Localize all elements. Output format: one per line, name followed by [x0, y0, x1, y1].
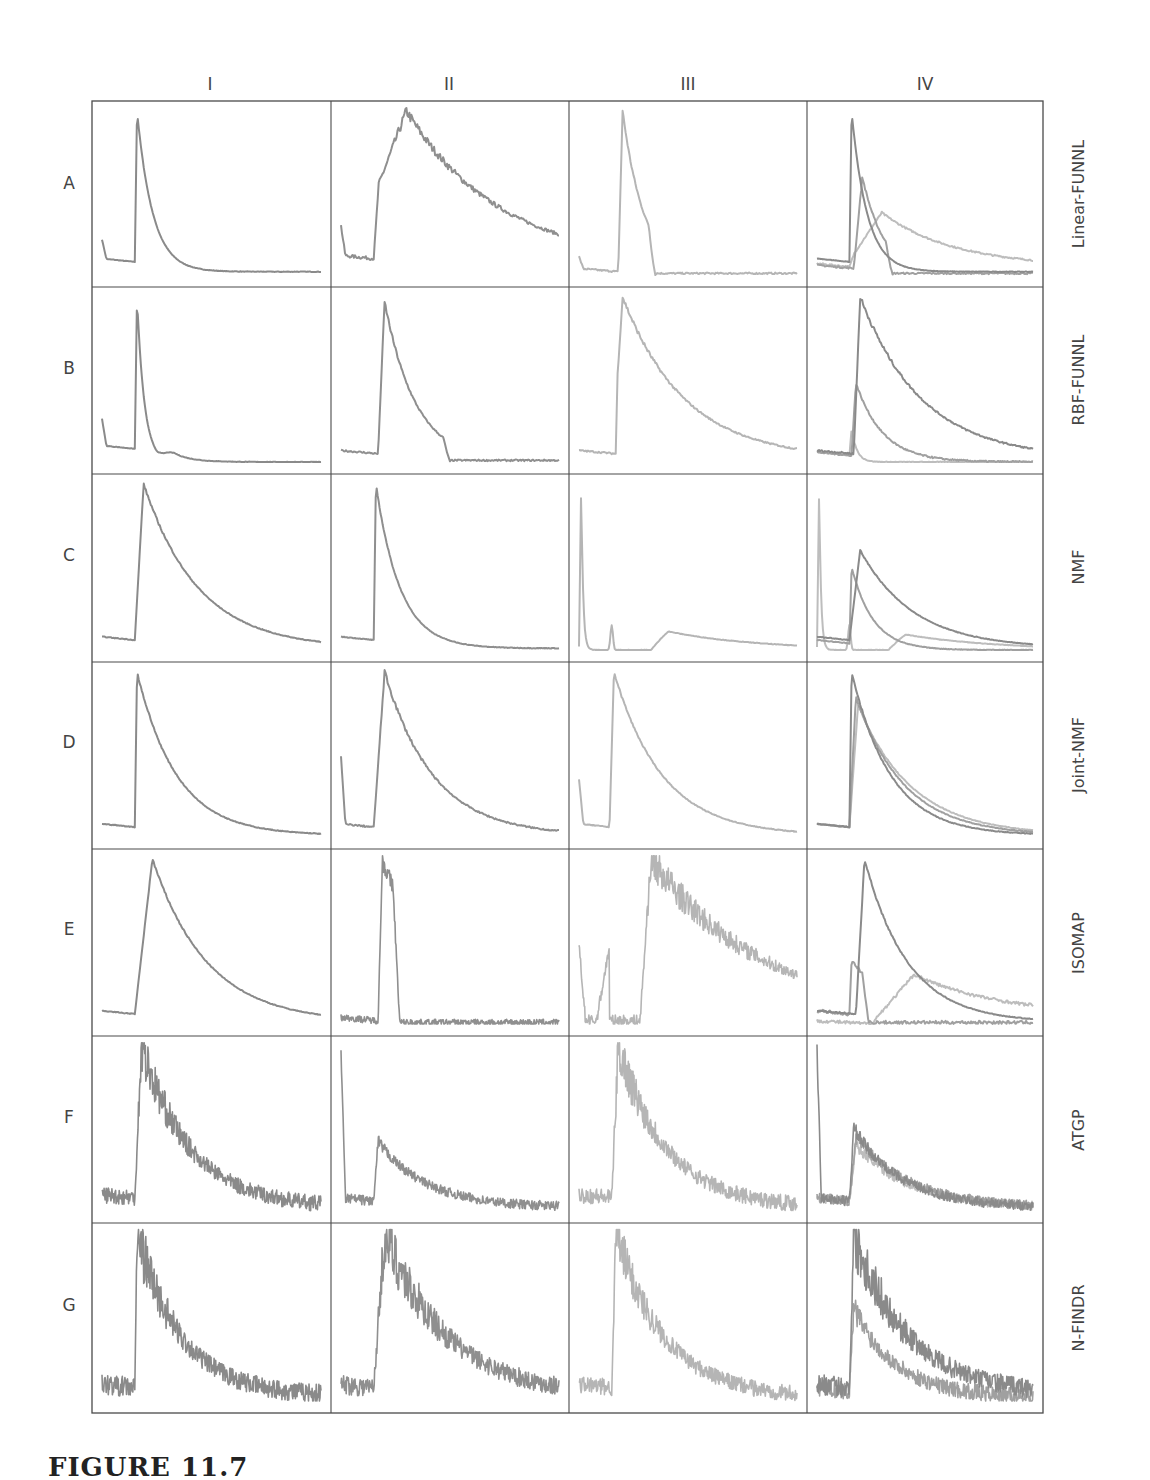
curve-line	[102, 1230, 321, 1401]
curve-line	[341, 670, 559, 831]
curve-line	[817, 1230, 1033, 1398]
method-label-atgp: ATGP	[1069, 1109, 1088, 1151]
panel-C-II	[341, 488, 559, 648]
curve-line	[817, 431, 1033, 462]
panel-A-II	[341, 108, 559, 260]
curve-line	[102, 674, 321, 834]
curve-line	[102, 1043, 321, 1211]
curve-line	[579, 111, 797, 275]
curve-line	[579, 1043, 797, 1211]
panel-G-III	[579, 1230, 797, 1401]
panel-A-I	[102, 119, 321, 272]
row-label-C: C	[54, 545, 84, 565]
curve-line	[579, 498, 797, 650]
panel-D-I	[102, 674, 321, 834]
panel-F-I	[102, 1043, 321, 1211]
curve-line	[579, 298, 797, 454]
curve-line	[817, 675, 1033, 834]
panel-C-III	[579, 498, 797, 650]
panel-E-III	[579, 856, 797, 1024]
row-label-G: G	[54, 1295, 84, 1315]
curve-line	[102, 119, 321, 272]
panel-E-IV	[817, 862, 1033, 1024]
grid-frame	[92, 101, 1043, 1413]
panel-B-II	[341, 302, 559, 461]
panel-B-IV	[817, 299, 1033, 462]
panel-F-II	[341, 1050, 559, 1210]
curve-line	[102, 860, 321, 1015]
column-label-I: I	[180, 74, 240, 94]
panel-A-III	[579, 111, 797, 275]
curve-line	[341, 1050, 559, 1210]
curve-line	[341, 488, 559, 648]
curve-line	[341, 302, 559, 461]
curve-line	[341, 1230, 559, 1396]
row-label-D: D	[54, 732, 84, 752]
panel-E-I	[102, 860, 321, 1015]
method-label-linear-funnl: Linear-FUNNL	[1069, 140, 1088, 248]
curve-line	[102, 484, 321, 643]
row-label-E: E	[54, 919, 84, 939]
curve-line	[102, 311, 321, 462]
column-label-II: II	[419, 74, 479, 94]
panel-B-III	[579, 298, 797, 454]
column-label-III: III	[658, 74, 718, 94]
panel-D-III	[579, 674, 797, 832]
panel-C-I	[102, 484, 321, 643]
panel-D-II	[341, 670, 559, 831]
panel-A-IV	[817, 119, 1033, 275]
panel-G-II	[341, 1230, 559, 1396]
method-label-joint-nmf: Joint-NMF	[1069, 717, 1088, 793]
panel-G-IV	[817, 1230, 1033, 1401]
curve-line	[817, 299, 1033, 454]
row-label-B: B	[54, 358, 84, 378]
curve-line	[579, 1230, 797, 1401]
panel-F-IV	[817, 1045, 1033, 1211]
curve-line	[341, 856, 559, 1024]
curve-line	[579, 674, 797, 832]
curve-line	[341, 108, 559, 260]
method-label-n-findr: N-FINDR	[1069, 1284, 1088, 1351]
column-label-IV: IV	[895, 74, 955, 94]
curve-line	[579, 856, 797, 1024]
panel-B-I	[102, 311, 321, 462]
method-label-rbf-funnl: RBF-FUNNL	[1069, 335, 1088, 426]
curve-line	[817, 119, 1033, 272]
method-label-isomap: ISOMAP	[1069, 912, 1088, 974]
panel-D-IV	[817, 675, 1033, 834]
panel-C-IV	[817, 499, 1033, 650]
method-label-nmf: NMF	[1069, 550, 1088, 585]
row-label-F: F	[54, 1107, 84, 1127]
panel-E-II	[341, 856, 559, 1024]
figure-caption: FIGURE 11.7	[48, 1452, 248, 1480]
row-label-A: A	[54, 173, 84, 193]
panel-F-III	[579, 1043, 797, 1211]
panel-G-I	[102, 1230, 321, 1401]
